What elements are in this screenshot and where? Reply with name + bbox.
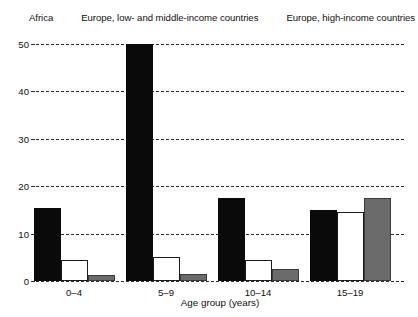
- bar-group: 10–14: [218, 44, 299, 281]
- bar-group: 15–19: [310, 44, 391, 281]
- plot-area: 01020304050 0–45–910–1415–19: [36, 44, 404, 281]
- y-tick-label-10: 10: [18, 228, 29, 239]
- x-axis-title: Age group (years): [36, 297, 404, 308]
- bar-chart: 01020304050 0–45–910–1415–19 Age group (…: [0, 0, 418, 317]
- bar: [180, 274, 207, 281]
- y-tick-mark-0: [31, 281, 35, 282]
- bar: [88, 275, 115, 281]
- bar: [61, 260, 88, 281]
- bar: [364, 198, 391, 281]
- bar-group: 5–9: [126, 44, 207, 281]
- bar: [272, 269, 299, 281]
- bar: [153, 257, 180, 281]
- bar-group: 0–4: [34, 44, 115, 281]
- bar: [34, 208, 61, 281]
- y-tick-label-40: 40: [18, 86, 29, 97]
- y-tick-label-30: 30: [18, 133, 29, 144]
- bar: [218, 198, 245, 281]
- y-tick-label-50: 50: [18, 39, 29, 50]
- gridline-0: [36, 281, 404, 282]
- bar: [337, 212, 364, 281]
- y-tick-label-20: 20: [18, 181, 29, 192]
- bar: [310, 210, 337, 281]
- bar: [245, 260, 272, 281]
- y-tick-label-0: 0: [24, 276, 29, 287]
- bar: [126, 44, 153, 281]
